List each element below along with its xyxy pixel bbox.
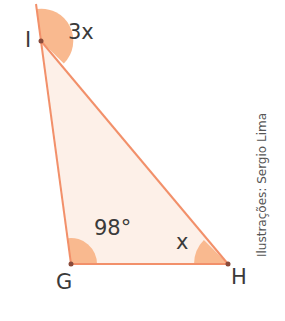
illustration-credit: Ilustrações: Sergio Lima — [255, 113, 269, 257]
vertex-label-G: G — [56, 272, 72, 293]
vertex-G-dot — [69, 262, 74, 267]
angle-label-H: x — [176, 232, 188, 253]
angle-label-G: 98° — [94, 218, 131, 239]
vertex-H-dot — [226, 262, 231, 267]
vertex-label-H: H — [231, 267, 247, 288]
vertex-label-I: I — [25, 30, 31, 51]
angle-label-I-exterior: 3x — [68, 22, 94, 43]
vertex-I-dot — [39, 39, 44, 44]
